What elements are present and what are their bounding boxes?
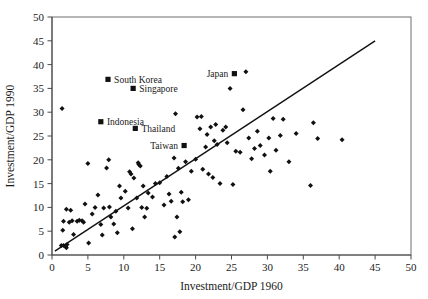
data-point bbox=[195, 114, 200, 119]
annotation-label: Indonesia bbox=[107, 117, 145, 127]
annotation-marker bbox=[131, 86, 136, 91]
data-point bbox=[252, 146, 257, 151]
data-point bbox=[71, 232, 76, 237]
data-point bbox=[142, 214, 147, 219]
data-point bbox=[61, 219, 66, 224]
data-point bbox=[100, 233, 105, 238]
y-tick-label: 20 bbox=[33, 154, 45, 166]
data-point bbox=[212, 138, 217, 143]
data-point bbox=[167, 192, 172, 197]
x-tick-label: 0 bbox=[49, 261, 55, 273]
data-point bbox=[153, 181, 158, 186]
data-point bbox=[115, 230, 120, 235]
y-axis-title: Investment/GDP 1990 bbox=[4, 84, 16, 187]
data-point bbox=[68, 208, 73, 213]
data-point bbox=[230, 182, 235, 187]
data-point bbox=[111, 222, 116, 227]
data-point bbox=[169, 199, 174, 204]
data-point bbox=[281, 117, 286, 122]
data-point bbox=[228, 86, 233, 91]
data-point bbox=[86, 241, 91, 246]
annotation-label: Taiwan bbox=[150, 141, 178, 151]
annotation-marker bbox=[182, 143, 187, 148]
data-point bbox=[144, 206, 149, 211]
data-point bbox=[139, 205, 144, 210]
data-point bbox=[262, 153, 267, 158]
data-point bbox=[162, 203, 167, 208]
y-tick-label: 40 bbox=[33, 59, 45, 71]
data-point bbox=[101, 205, 106, 210]
data-point bbox=[258, 143, 263, 148]
data-point bbox=[93, 205, 98, 210]
x-tick-label: 25 bbox=[226, 261, 238, 273]
y-tick-label: 30 bbox=[33, 106, 45, 118]
x-axis-title: Investment/GDP 1960 bbox=[180, 280, 283, 292]
annotation-label: Singapore bbox=[139, 84, 178, 94]
data-point bbox=[255, 129, 260, 134]
data-point bbox=[205, 132, 210, 137]
data-point bbox=[172, 234, 177, 239]
data-point bbox=[311, 120, 316, 125]
data-point bbox=[218, 181, 223, 186]
x-tick-label: 30 bbox=[262, 261, 274, 273]
data-point bbox=[130, 226, 135, 231]
y-tick-label: 25 bbox=[33, 130, 45, 142]
data-point bbox=[107, 204, 112, 209]
data-point bbox=[179, 190, 184, 195]
data-point bbox=[223, 124, 228, 129]
data-point bbox=[200, 167, 205, 172]
data-point bbox=[274, 148, 279, 153]
data-point bbox=[123, 189, 128, 194]
data-point bbox=[176, 166, 181, 171]
annotation-label: Japan bbox=[207, 69, 229, 79]
x-tick-label: 5 bbox=[85, 261, 91, 273]
data-point bbox=[189, 169, 194, 174]
data-point bbox=[278, 133, 283, 138]
data-point bbox=[60, 228, 65, 233]
data-point bbox=[315, 136, 320, 141]
data-point bbox=[213, 122, 218, 127]
data-point bbox=[126, 205, 131, 210]
y-tick-label: 50 bbox=[33, 11, 45, 23]
data-point bbox=[64, 207, 69, 212]
data-point bbox=[271, 116, 276, 121]
data-point bbox=[104, 165, 109, 170]
data-point bbox=[173, 111, 178, 116]
data-point bbox=[106, 157, 111, 162]
data-point bbox=[186, 197, 191, 202]
data-point bbox=[268, 169, 273, 174]
data-point bbox=[131, 175, 136, 180]
x-tick-label: 15 bbox=[154, 261, 166, 273]
data-point bbox=[83, 202, 88, 207]
scatter-plot-figure: 0510152025303540455005101520253035404550… bbox=[0, 0, 428, 299]
data-point bbox=[294, 131, 299, 136]
data-point bbox=[238, 150, 243, 155]
data-point bbox=[308, 183, 313, 188]
data-point bbox=[60, 106, 65, 111]
data-point bbox=[243, 69, 248, 74]
chart-canvas: 0510152025303540455005101520253035404550… bbox=[0, 0, 428, 299]
data-point bbox=[220, 128, 225, 133]
data-point bbox=[172, 155, 177, 160]
data-point bbox=[118, 195, 123, 200]
data-point bbox=[150, 194, 155, 199]
data-point bbox=[246, 135, 251, 140]
data-point bbox=[177, 229, 182, 234]
data-point bbox=[340, 137, 345, 142]
data-point bbox=[240, 107, 245, 112]
data-point bbox=[210, 175, 215, 180]
y-tick-label: 45 bbox=[33, 35, 45, 47]
y-tick-label: 5 bbox=[39, 225, 45, 237]
y-tick-label: 35 bbox=[33, 82, 45, 94]
country-annotations: South KoreaSingaporeIndonesiaThailandTai… bbox=[98, 69, 237, 151]
data-point bbox=[225, 140, 230, 145]
data-point bbox=[233, 149, 238, 154]
data-point bbox=[199, 114, 204, 119]
data-point bbox=[174, 214, 179, 219]
axis-titles: Investment/GDP 1960Investment/GDP 1990 bbox=[4, 84, 283, 292]
data-point bbox=[266, 135, 271, 140]
data-point bbox=[85, 161, 90, 166]
data-point bbox=[249, 156, 254, 161]
data-point bbox=[117, 183, 122, 188]
data-point bbox=[286, 159, 291, 164]
